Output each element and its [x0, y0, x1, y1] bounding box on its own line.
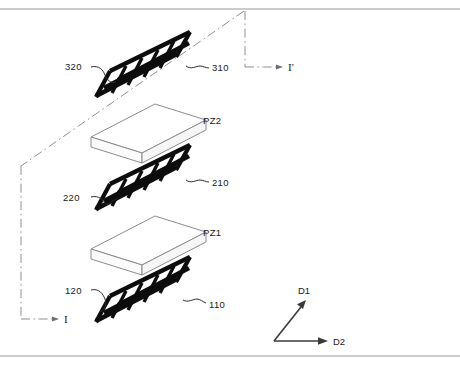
electrode-top: [96, 32, 190, 97]
section-arrow-start: [52, 317, 59, 322]
leader-210: [186, 180, 209, 182]
axis-d2-arrowhead: [318, 337, 328, 344]
figure-canvas: I' I: [0, 0, 460, 370]
section-marker-end: I': [288, 61, 294, 73]
ref-label-320: 320: [65, 61, 82, 72]
direction-axes: [274, 300, 328, 345]
patent-figure: I' I: [0, 0, 460, 370]
leader-110: [183, 299, 206, 303]
axis-label-d1: D1: [298, 285, 310, 296]
leader-310: [186, 66, 209, 68]
axis-d1-line: [274, 307, 301, 341]
ref-label-120: 120: [65, 285, 82, 296]
ref-label-220: 220: [63, 192, 80, 203]
ref-label-110: 110: [209, 299, 225, 310]
piezo-lower-label: PZ1: [203, 227, 221, 238]
piezo-upper-label: PZ2: [203, 115, 221, 126]
piezo-upper: [91, 104, 206, 163]
ref-label-210: 210: [212, 177, 229, 188]
axis-label-d2: D2: [333, 336, 345, 347]
axis-d1-arrowhead: [297, 300, 306, 309]
section-arrow-end: [276, 65, 283, 70]
section-marker-start: I: [64, 313, 68, 325]
piezo-lower: [91, 216, 206, 275]
ref-label-310: 310: [212, 62, 229, 73]
